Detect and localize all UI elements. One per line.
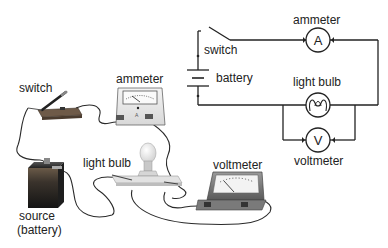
switch-illustration-label: switch	[19, 82, 52, 94]
source-label-line2: (battery)	[17, 223, 62, 237]
schematic-ammeter-label: ammeter	[293, 14, 340, 26]
voltmeter-illustration-label: voltmeter	[213, 159, 262, 171]
ammeter-illustration-label: ammeter	[116, 73, 163, 85]
switch-symbol	[209, 27, 230, 40]
ammeter-symbol-letter: A	[314, 33, 323, 48]
circuit-diagram: A V A	[0, 0, 388, 248]
battery-illustration	[28, 158, 64, 208]
voltmeter-illustration	[196, 172, 266, 210]
schematic-battery-label: battery	[216, 72, 253, 84]
switch-illustration	[28, 92, 82, 120]
schematic-switch-label: switch	[204, 44, 237, 56]
ammeter-illustration: A	[116, 88, 165, 125]
source-label-line1: source	[19, 209, 55, 223]
schematic-voltmeter-label: voltmeter	[294, 155, 343, 167]
light-bulb-illustration-label: light bulb	[83, 157, 131, 169]
schematic-light-bulb-label: light bulb	[293, 76, 341, 88]
voltmeter-symbol-letter: V	[314, 133, 323, 148]
